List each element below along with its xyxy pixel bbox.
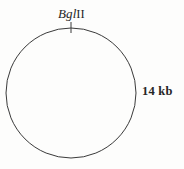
enzyme-name-roman: II (76, 7, 85, 21)
plasmid-map-figure: BglII 14 kb (0, 0, 184, 169)
restriction-site-label: BglII (58, 7, 85, 21)
plasmid-circle-backbone (6, 28, 136, 158)
genome-size-label: 14 kb (142, 85, 173, 98)
enzyme-name-italic: Bgl (58, 6, 76, 21)
